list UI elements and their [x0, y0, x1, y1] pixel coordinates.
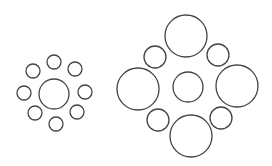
surround-circle — [147, 109, 169, 131]
ebbinghaus-diagram — [0, 0, 272, 166]
surround-circle — [68, 62, 82, 76]
surround-circle — [78, 85, 92, 99]
surround-circle — [207, 44, 229, 66]
surround-circle — [170, 115, 212, 157]
surround-circle — [70, 105, 84, 119]
surround-circle — [49, 117, 63, 131]
surround-circle — [47, 55, 61, 69]
surround-circle — [26, 64, 40, 78]
surround-circle — [117, 68, 159, 110]
surround-circle — [144, 46, 166, 68]
surround-circle — [210, 107, 232, 129]
surround-circle — [28, 106, 42, 120]
surround-circle — [17, 86, 31, 100]
large-surround-group — [117, 15, 258, 157]
center-circle — [39, 79, 69, 109]
small-surround-group — [17, 55, 92, 131]
surround-circle — [165, 15, 207, 57]
center-circle — [173, 72, 203, 102]
surround-circle — [216, 65, 258, 107]
